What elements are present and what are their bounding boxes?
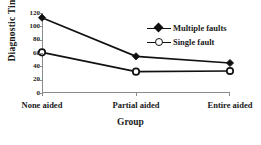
chart-legend: Multiple faults Single fault bbox=[147, 21, 259, 49]
legend-item-multiple-faults: Multiple faults bbox=[147, 21, 259, 35]
diagnostic-time-line-chart: Diagnostic Time 120100806040200 None aid… bbox=[0, 0, 261, 145]
y-tick-mark-20 bbox=[39, 80, 43, 81]
y-tick-label-20: 20 bbox=[20, 76, 40, 83]
legend-item-single-fault: Single fault bbox=[147, 35, 259, 49]
legend-swatch-single-fault bbox=[147, 36, 171, 48]
y-tick-mark-60 bbox=[39, 53, 43, 54]
x-tick-mark-0 bbox=[42, 92, 43, 96]
x-tick-label-1: Partial aided bbox=[113, 100, 160, 110]
y-tick-label-40: 40 bbox=[20, 63, 40, 70]
x-tick-mark-2 bbox=[229, 92, 230, 96]
data-point-single-fault-1 bbox=[133, 68, 139, 74]
y-tick-label-0: 0 bbox=[20, 90, 40, 97]
y-tick-label-120: 120 bbox=[20, 10, 40, 17]
filled-diamond-marker-icon bbox=[132, 53, 139, 60]
x-tick-mark-1 bbox=[136, 92, 137, 96]
y-tick-mark-80 bbox=[39, 40, 43, 41]
x-tick-label-0: None aided bbox=[22, 100, 63, 110]
open-circle-marker-icon bbox=[155, 38, 163, 46]
data-point-single-fault-2 bbox=[227, 68, 233, 74]
y-tick-label-100: 100 bbox=[20, 23, 40, 30]
y-tick-mark-40 bbox=[39, 66, 43, 67]
open-circle-marker-icon bbox=[227, 68, 233, 74]
legend-label-multiple-faults: Multiple faults bbox=[171, 23, 227, 33]
legend-label-single-fault: Single fault bbox=[171, 37, 214, 47]
y-tick-label-60: 60 bbox=[20, 50, 40, 57]
open-circle-marker-icon bbox=[133, 68, 139, 74]
filled-diamond-marker-icon bbox=[154, 23, 164, 33]
legend-swatch-multiple-faults bbox=[147, 22, 171, 34]
x-axis-title: Group bbox=[0, 117, 261, 127]
filled-diamond-marker-icon bbox=[226, 59, 233, 66]
x-tick-label-2: Entire aided bbox=[208, 100, 253, 110]
y-tick-mark-100 bbox=[39, 26, 43, 27]
y-tick-label-80: 80 bbox=[20, 36, 40, 43]
y-tick-mark-120 bbox=[39, 13, 43, 14]
data-point-multiple-faults-1 bbox=[132, 53, 139, 60]
data-point-multiple-faults-2 bbox=[226, 59, 233, 66]
